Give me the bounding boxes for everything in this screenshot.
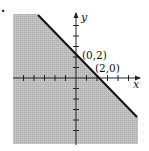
corner-mark: . bbox=[1, 1, 5, 15]
point-label-2-0: (2,0) bbox=[95, 62, 120, 74]
inequality-graph: y x (0,2) (2,0) . bbox=[0, 0, 149, 151]
point-label-0-2: (0,2) bbox=[82, 49, 107, 61]
y-axis-arrow-icon bbox=[74, 12, 79, 18]
x-axis-label: x bbox=[133, 78, 140, 91]
y-axis-label: y bbox=[80, 11, 88, 24]
